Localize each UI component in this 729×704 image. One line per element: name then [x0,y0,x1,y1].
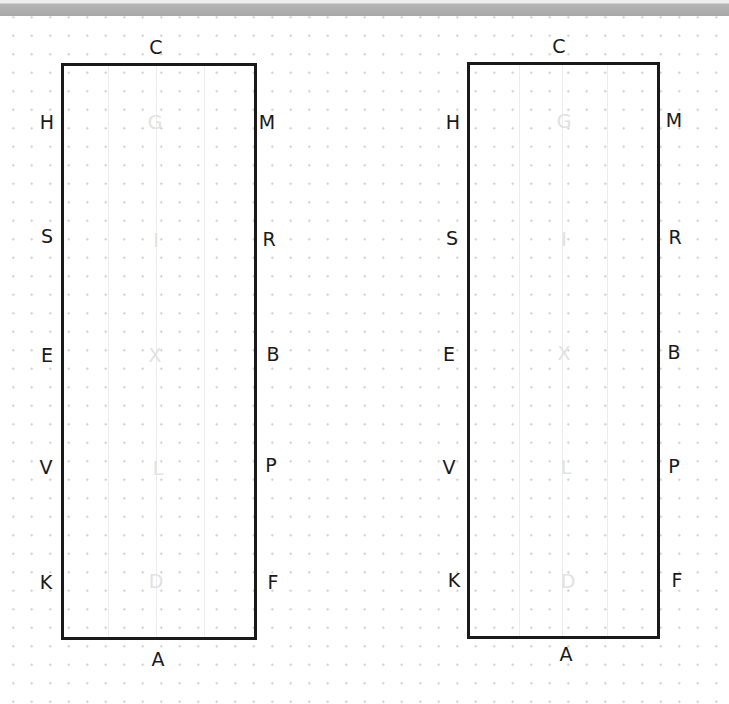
marker-centerline: D [149,572,164,591]
marker-top: C [552,37,565,56]
marker-centerline: I [561,230,567,249]
marker-right: B [266,345,279,364]
marker-centerline: X [148,346,161,365]
quarter-line [108,66,109,637]
marker-centerline: X [557,344,570,363]
marker-centerline: G [148,113,163,132]
marker-right: M [259,113,275,132]
quarter-line [204,66,205,637]
quarter-line [607,65,608,636]
marker-left: E [443,345,455,364]
marker-centerline: I [153,231,159,250]
marker-right: R [668,228,681,247]
marker-left: V [40,458,53,477]
marker-right: P [668,457,679,476]
marker-left: S [446,229,458,248]
marker-right: M [666,111,682,130]
marker-left: H [40,113,54,132]
marker-left: K [448,571,460,590]
marker-right: P [265,456,276,475]
marker-centerline: L [153,459,164,478]
top-bar [0,0,729,16]
marker-left: K [40,573,52,592]
marker-left: H [446,113,460,132]
marker-bottom: A [560,645,573,664]
marker-right: B [667,343,680,362]
marker-right: F [268,573,279,592]
quarter-line [519,65,520,636]
marker-left: V [443,458,456,477]
marker-right: R [262,230,275,249]
marker-centerline: D [561,572,576,591]
marker-right: F [672,571,683,590]
marker-left: E [41,346,53,365]
marker-top: C [149,38,162,57]
marker-left: S [41,227,53,246]
marker-bottom: A [152,650,165,669]
marker-centerline: L [561,458,572,477]
marker-centerline: G [557,112,572,131]
